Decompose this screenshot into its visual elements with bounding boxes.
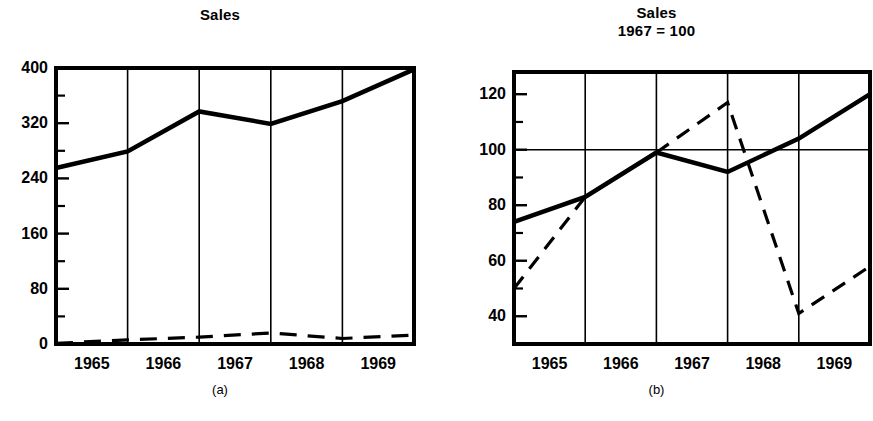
y-axis-tick-label: 80 (488, 197, 506, 213)
y-axis-tick-label: 80 (30, 281, 48, 297)
y-axis-tick-label: 100 (479, 142, 506, 158)
chart-panel-b: Sales 1967 = 100 (b) 1201008060401965196… (440, 0, 873, 421)
plot-frame (56, 68, 414, 344)
x-axis-tick-label: 1968 (267, 356, 347, 372)
x-axis-tick-label: 1965 (52, 356, 132, 372)
x-axis-tick-label: 1967 (195, 356, 275, 372)
series-line-dashed (514, 103, 870, 314)
x-axis-tick-label: 1966 (581, 356, 661, 372)
series-line-solid (514, 94, 870, 222)
x-axis-tick-label: 1967 (652, 356, 732, 372)
y-axis-tick-label: 240 (21, 170, 48, 186)
y-axis-tick-label: 40 (488, 308, 506, 324)
chart-b-caption: (b) (440, 382, 873, 397)
y-axis-tick-label: 120 (479, 86, 506, 102)
x-axis-tick-label: 1965 (510, 356, 590, 372)
x-axis-tick-label: 1969 (794, 356, 873, 372)
series-line-solid (56, 69, 414, 168)
chart-a-caption: (a) (0, 382, 440, 397)
y-axis-tick-label: 0 (39, 336, 48, 352)
y-axis-tick-label: 320 (21, 115, 48, 131)
y-axis-tick-label: 400 (21, 60, 48, 76)
x-axis-tick-label: 1968 (723, 356, 803, 372)
series-line-dashed (56, 333, 414, 343)
chart-panel-a: Sales (a) 400320240160800196519661967196… (0, 0, 440, 421)
y-axis-tick-label: 160 (21, 226, 48, 242)
sales-figure: Sales (a) 400320240160800196519661967196… (0, 0, 873, 421)
y-axis-tick-label: 60 (488, 253, 506, 269)
x-axis-tick-label: 1969 (338, 356, 418, 372)
x-axis-tick-label: 1966 (123, 356, 203, 372)
